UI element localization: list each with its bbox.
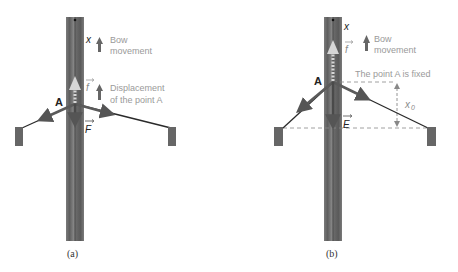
panel-a: x A f F Bow movement Displacement of the…	[15, 17, 176, 260]
bow-stick	[66, 17, 84, 241]
svg-text:Bow: Bow	[110, 35, 128, 45]
force-label: E	[343, 115, 352, 131]
svg-text:x: x	[404, 99, 411, 110]
anchor-right	[168, 127, 176, 146]
anchor-left	[15, 127, 23, 146]
axis-label-x: x	[343, 21, 350, 32]
svg-text:movement: movement	[374, 45, 417, 55]
axis-label-x: x	[85, 34, 92, 45]
point-label-a: A	[314, 75, 322, 87]
svg-text:Bow: Bow	[374, 34, 392, 44]
svg-text:0: 0	[411, 104, 415, 111]
svg-text:f: f	[86, 82, 90, 93]
caption-b: (b)	[326, 248, 338, 260]
fixed-point-note: The point A is fixed	[355, 69, 431, 79]
displacement-arrow-icon	[394, 83, 400, 127]
up-arrow-icon	[363, 35, 370, 51]
anchor-left	[274, 127, 283, 146]
anchor-right	[427, 127, 436, 146]
legend-displacement: Displacement of the point A	[96, 83, 165, 105]
friction-label: f	[86, 79, 94, 94]
up-arrow-icon	[96, 37, 103, 52]
violin-string	[22, 104, 171, 128]
caption-a: (a)	[67, 248, 78, 260]
svg-text:Displacement: Displacement	[110, 83, 165, 93]
legend-bow-movement: Bow movement	[96, 35, 153, 56]
panel-b: x A f E Bow movement The point A is fixe…	[274, 17, 436, 260]
svg-text:F: F	[85, 124, 92, 135]
friction-label: f	[345, 41, 353, 56]
up-arrow-icon	[96, 84, 103, 100]
svg-text:of the point A: of the point A	[110, 95, 163, 105]
bow-string-diagram: x A f F Bow movement Displacement of the…	[0, 0, 458, 272]
svg-text:E: E	[343, 119, 350, 130]
svg-text:f: f	[345, 44, 349, 55]
point-label-a: A	[55, 96, 63, 108]
legend-bow-movement: Bow movement	[363, 34, 417, 55]
force-label: F	[85, 120, 94, 136]
displacement-label-x0: x 0	[404, 99, 415, 111]
svg-text:movement: movement	[110, 46, 153, 56]
